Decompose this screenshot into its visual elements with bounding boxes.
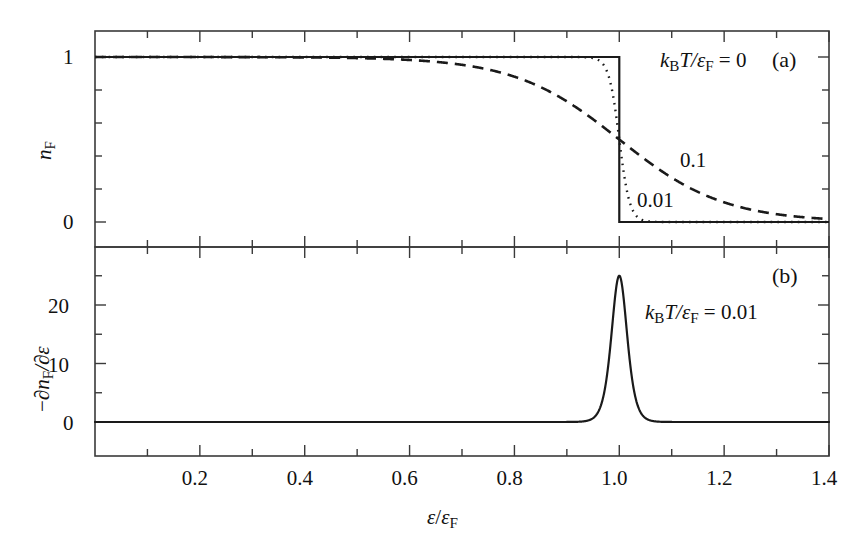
- x-axis-title: ε/εF: [427, 505, 458, 532]
- panel-b-legend: kBT/εF = 0.01: [645, 300, 758, 327]
- panel-b-yaxis-nsub: F: [40, 371, 56, 379]
- panel-a-yaxis-title: nF: [32, 141, 59, 160]
- panel-b-ytick-0: 0: [63, 411, 74, 436]
- panel-b-label: (b): [772, 263, 798, 289]
- panel-b-legend-k-sub: B: [654, 310, 664, 326]
- panel-a-ytick-0: 0: [63, 210, 74, 235]
- panel-a-label: (a): [772, 47, 796, 73]
- panel-a-legend-eps: ε: [697, 48, 705, 72]
- fermi-dirac-figure: [0, 0, 861, 545]
- panel-b-yaxis-title: −∂nF/∂ε: [30, 346, 57, 412]
- panel-a-legend-eq: = 0: [714, 48, 747, 72]
- x-tick-label: 0.4: [287, 466, 313, 491]
- panel-a-ytick-1: 1: [63, 45, 74, 70]
- panel-b-legend-eps-sub: F: [690, 310, 698, 326]
- panel-b-legend-eq: = 0.01: [699, 300, 758, 324]
- panel-b-yaxis-dn: ∂n: [30, 379, 54, 400]
- panel-b-legend-eps: ε: [682, 300, 690, 324]
- panel-b-legend-k: k: [645, 300, 654, 324]
- x-tick-label: 1.2: [706, 466, 732, 491]
- panel-a-label-dashed: 0.1: [680, 148, 706, 173]
- panel-a-label-dotted: 0.01: [637, 188, 674, 213]
- panel-b-yaxis-minus: −: [30, 400, 54, 412]
- x-tick-label: 1.4: [811, 466, 837, 491]
- panel-a-legend-zero: kBT/εF = 0: [660, 48, 746, 75]
- panel-b-legend-t: T/: [664, 300, 682, 324]
- figure-background: [0, 0, 861, 545]
- panel-a-legend-k-sub: B: [669, 58, 679, 74]
- panel-b-ytick-20: 20: [48, 294, 69, 319]
- x-tick-label: 0.6: [392, 466, 418, 491]
- panel-a-yaxis-sub: F: [42, 141, 58, 149]
- panel-a-yaxis-n: n: [32, 150, 56, 161]
- panel-a-legend-t: T/: [679, 48, 697, 72]
- panel-b-yaxis-deps: /∂ε: [30, 346, 54, 371]
- x-axis-sub: F: [449, 515, 457, 531]
- x-tick-label: 0.8: [496, 466, 522, 491]
- x-tick-label: 0.2: [182, 466, 208, 491]
- x-tick-label: 1.0: [601, 466, 627, 491]
- panel-a-legend-eps-sub: F: [705, 58, 713, 74]
- panel-a-legend-k: k: [660, 48, 669, 72]
